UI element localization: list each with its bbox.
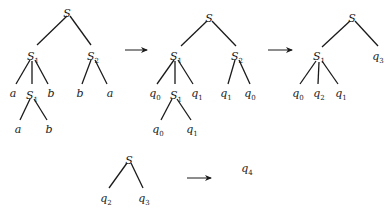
node-subscript: 0 [299,94,303,102]
tree-edge [318,62,319,84]
tree-node-label: S [63,7,71,20]
node-subscript: 1 [342,94,346,102]
rewrite-arrows [125,50,292,178]
tree-rewriting-diagram: SS1S2aS1bbaabSS1S2q0S1q1q1q0q0q1SS1q3q0q… [0,0,392,213]
node-subscript: 0 [156,94,160,102]
tree-edge [157,60,174,84]
tree-node-label: S [125,154,133,167]
tree-4: Sq2q3 [100,154,150,207]
tree-edge [212,21,236,46]
node-subscript: 0 [159,130,163,138]
node-subscript: 1 [227,94,231,102]
node-subscript: 1 [193,130,197,138]
tree-edge [322,21,350,47]
tree-node-label: q0 [149,87,161,102]
node-subscript: 2 [107,199,111,207]
node-subscript: 0 [251,94,255,102]
tree-node-label: q3 [138,192,150,207]
node-subscript: 2 [95,57,99,65]
tree-node-label: S1 [26,89,38,104]
tree-node-label: q0 [292,87,304,102]
tree-node-label: b [47,87,54,100]
tree-node-label: q0 [152,123,164,138]
tree-node-label: q2 [313,87,325,102]
tree-node-label: S1 [170,50,182,65]
tree-node-label: q1 [191,87,203,102]
tree-edge [37,16,67,45]
node-subscript: 3 [145,199,149,207]
tree-node-label: b [76,87,83,100]
tree-5: q4 [241,162,253,177]
tree-node-label: q2 [100,192,112,207]
node-subscript: 1 [178,57,182,65]
tree-node-label: a [10,87,17,100]
tree-node-label: S2 [87,50,99,65]
node-subscript: 4 [248,169,253,177]
node-subscript: 1 [34,96,38,104]
tree-node-label: q0 [244,87,256,102]
node-subscript: 1 [321,57,325,65]
tree-2: SS1S2q0S1q1q1q0q0q1 [149,12,256,138]
node-subscript: 1 [178,96,182,104]
tree-edge [161,99,172,120]
tree-edge [300,61,316,84]
tree-node-label: S1 [27,50,39,65]
tree-node-label: S1 [313,50,325,65]
tree-node-label: a [15,123,22,136]
tree-node-label: q1 [220,87,232,102]
tree-edge [82,60,91,84]
node-subscript: 1 [198,94,202,102]
tree-node-label: q4 [241,162,253,177]
tree-edge [181,21,207,46]
tree-node-label: b [45,123,52,136]
tree-edges [16,16,378,188]
tree-edge [16,60,30,84]
node-subscript: 2 [239,57,243,65]
node-subscript: 2 [320,94,324,102]
tree-nodes: SS1S2aS1bbaabSS1S2q0S1q1q1q0q0q1SS1q3q0q… [10,7,384,207]
tree-node-label: q1 [186,123,198,138]
tree-node-label: S [348,12,356,25]
tree-node-label: a [107,87,114,100]
tree-node-label: q3 [372,50,384,65]
tree-node-label: S1 [170,89,182,104]
tree-edge [70,16,91,45]
tree-edge [131,163,143,188]
tree-3: SS1q3q0q2q1 [292,12,384,102]
tree-1: SS1S2aS1bbaab [10,7,114,136]
tree-node-label: S2 [231,50,243,65]
tree-edge [228,60,235,84]
tree-node-label: S [205,12,213,25]
tree-node-label: q1 [335,87,347,102]
tree-edge [20,99,30,120]
node-subscript: 1 [35,57,39,65]
node-subscript: 3 [379,57,383,65]
tree-edge [355,21,378,46]
